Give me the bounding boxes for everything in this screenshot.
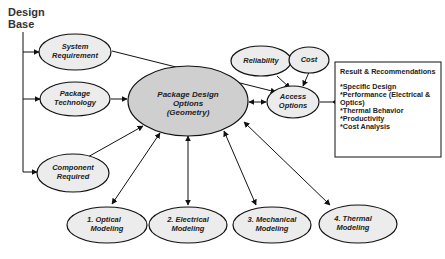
- svg-text:4. Thermal: 4. Thermal: [333, 214, 372, 223]
- svg-text:Access: Access: [279, 92, 306, 101]
- svg-text:Reliability: Reliability: [243, 56, 279, 65]
- design-base-title-line2: Base: [8, 18, 34, 30]
- node-reliability: Reliability: [231, 46, 291, 76]
- svg-text:1. Optical: 1. Optical: [87, 215, 122, 224]
- svg-text:Modeling: Modeling: [172, 224, 205, 233]
- results-heading: Result & Recommendations: [340, 67, 435, 76]
- svg-text:Requirement: Requirement: [52, 51, 98, 60]
- svg-text:Technology: Technology: [54, 98, 97, 107]
- node-mechanical-modeling: 3. Mechanical Modeling: [233, 207, 311, 243]
- svg-text:Options: Options: [279, 101, 307, 110]
- svg-text:Modeling: Modeling: [256, 224, 289, 233]
- node-optical-modeling: 1. Optical Modeling: [67, 207, 147, 243]
- svg-text:Modeling: Modeling: [91, 224, 124, 233]
- arrow-design-optical: [112, 133, 160, 204]
- arrow-component-to-design: [86, 126, 143, 158]
- node-system-requirement: System Requirement: [39, 34, 111, 70]
- svg-text:Modeling: Modeling: [337, 223, 370, 232]
- svg-text:Required: Required: [57, 172, 90, 181]
- svg-text:Component: Component: [52, 163, 94, 172]
- design-base-title-line1: Design: [8, 6, 45, 18]
- node-electrical-modeling: 2. Electrical Modeling: [149, 207, 227, 243]
- svg-text:2. Electrical: 2. Electrical: [166, 215, 210, 224]
- svg-text:Cost: Cost: [301, 55, 318, 64]
- node-package-design-options: Package Design Options (Geometry): [128, 66, 248, 136]
- node-cost: Cost: [289, 47, 329, 73]
- svg-text:(Geometry): (Geometry): [167, 108, 210, 117]
- arrow-design-mechanical: [224, 131, 256, 205]
- svg-text:Options: Options: [173, 99, 204, 108]
- svg-text:System: System: [62, 42, 89, 51]
- results-item: *Cost Analysis: [340, 122, 390, 131]
- svg-text:Package: Package: [60, 89, 90, 98]
- package-design-flow-diagram: Design Base System Requirement Package T…: [0, 0, 445, 259]
- svg-text:Package Design: Package Design: [157, 90, 218, 99]
- arrow-design-thermal: [244, 122, 330, 205]
- svg-text:3. Mechanical: 3. Mechanical: [248, 215, 298, 224]
- node-package-technology: Package Technology: [40, 82, 110, 116]
- results-recommendations-box: Result & Recommendations *Specific Desig…: [335, 62, 441, 157]
- node-component-required: Component Required: [37, 154, 109, 192]
- node-thermal-modeling: 4. Thermal Modeling: [319, 205, 397, 243]
- node-access-options: Access Options: [267, 86, 319, 118]
